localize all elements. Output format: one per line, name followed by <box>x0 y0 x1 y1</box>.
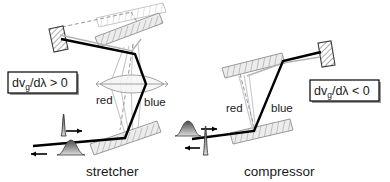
label-blue-compressor: blue <box>271 102 293 114</box>
input-pulse-compressor <box>175 121 217 136</box>
lens-stretcher <box>96 75 168 93</box>
formula-rest-compressor: /dλ < 0 <box>332 84 370 98</box>
label-red-stretcher: red <box>96 94 113 106</box>
input-arrow-head-c <box>212 126 217 131</box>
output-arrow-head-c <box>185 145 190 150</box>
input-arrow-head <box>77 128 82 133</box>
label-blue-stretcher: blue <box>144 96 166 108</box>
formula-text-compressor: dvg/dλ < 0 <box>314 84 370 100</box>
stretcher-compressor-diagram: red blue dvg/dλ > 0 stretcher <box>0 0 390 182</box>
formula-box-stretcher: dvg/dλ > 0 <box>8 72 79 95</box>
label-red-compressor: red <box>226 102 243 114</box>
panel-stretcher: red blue dvg/dλ > 0 stretcher <box>8 1 168 179</box>
end-mirror-body-c <box>318 41 335 67</box>
input-pulse-shape-c <box>175 121 201 136</box>
panel-compressor: red blue dvg/dλ < 0 compressor <box>175 41 381 179</box>
figure-root: red blue dvg/dλ > 0 stretcher <box>0 0 390 182</box>
formula-box-compressor: dvg/dλ < 0 <box>310 80 381 103</box>
formula-rest-stretcher: /dλ > 0 <box>30 76 68 90</box>
grating-lower-body-c <box>230 119 293 144</box>
caption-compressor: compressor <box>244 164 315 179</box>
formula-text-stretcher: dvg/dλ > 0 <box>12 76 68 92</box>
input-pulse-stretcher <box>61 114 82 136</box>
output-pulse-shape-c <box>203 126 208 155</box>
output-arrow-head <box>31 151 36 156</box>
formula-lead-stretcher: dv <box>12 76 26 90</box>
input-pulse-shape <box>61 114 66 136</box>
end-mirror-compressor <box>318 41 335 67</box>
formula-lead-compressor: dv <box>314 84 328 98</box>
caption-stretcher: stretcher <box>86 164 139 179</box>
